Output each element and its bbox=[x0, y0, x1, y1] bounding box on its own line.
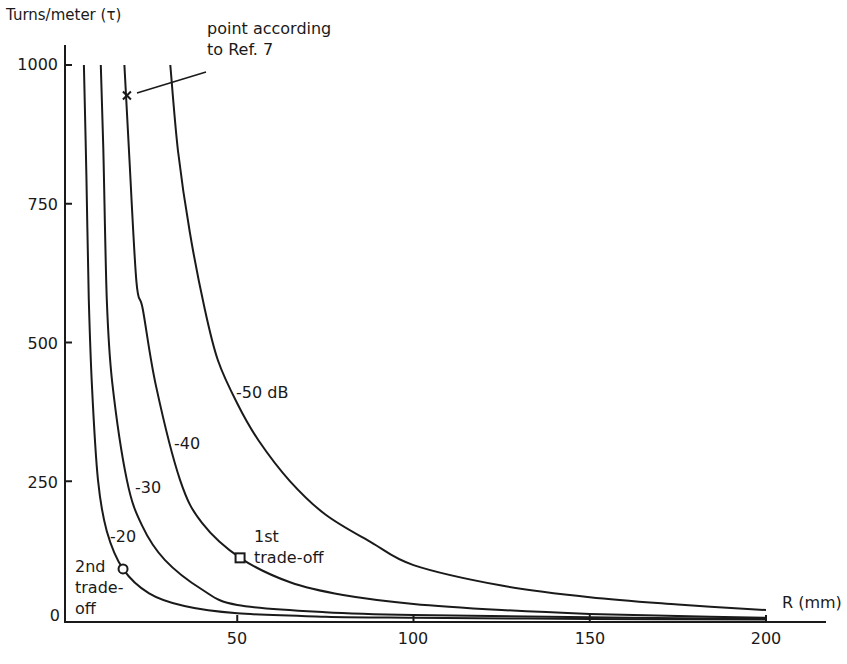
curve-label-m50: -50 dB bbox=[236, 384, 288, 402]
ref7-annotation-line2: to Ref. 7 bbox=[207, 41, 273, 59]
first-tradeoff-line2: trade-off bbox=[254, 549, 324, 567]
curve-30 bbox=[101, 65, 766, 619]
ytick-500: 500 bbox=[8, 335, 58, 353]
second-tradeoff-line3: off bbox=[75, 600, 96, 618]
chart-plot bbox=[0, 0, 847, 664]
ytick-0: 0 bbox=[10, 607, 60, 625]
xtick-200: 200 bbox=[741, 630, 791, 648]
x-axis-title: R (mm) bbox=[782, 594, 842, 612]
y-axis-title: Turns/meter (τ) bbox=[6, 6, 121, 24]
xtick-50: 50 bbox=[212, 630, 262, 648]
curves bbox=[84, 65, 766, 619]
second-tradeoff-line2: trade- bbox=[75, 579, 123, 597]
ytick-1000: 1000 bbox=[8, 56, 58, 74]
ytick-750: 750 bbox=[8, 196, 58, 214]
curve-label-m20: -20 bbox=[110, 528, 136, 546]
curve-label-m30: -30 bbox=[135, 479, 161, 497]
ytick-250: 250 bbox=[8, 474, 58, 492]
curve-20 bbox=[84, 65, 766, 619]
curve-40 bbox=[124, 65, 766, 618]
first-tradeoff-square-marker bbox=[236, 553, 245, 562]
curve-label-m40: -40 bbox=[174, 435, 200, 453]
ref7-annotation-line1: point according bbox=[207, 20, 331, 38]
markers bbox=[119, 92, 245, 574]
xtick-100: 100 bbox=[388, 630, 438, 648]
y-ticks bbox=[65, 65, 72, 481]
second-tradeoff-circle-marker bbox=[119, 564, 128, 573]
second-tradeoff-line1: 2nd bbox=[75, 558, 105, 576]
first-tradeoff-line1: 1st bbox=[254, 528, 279, 546]
xtick-150: 150 bbox=[565, 630, 615, 648]
